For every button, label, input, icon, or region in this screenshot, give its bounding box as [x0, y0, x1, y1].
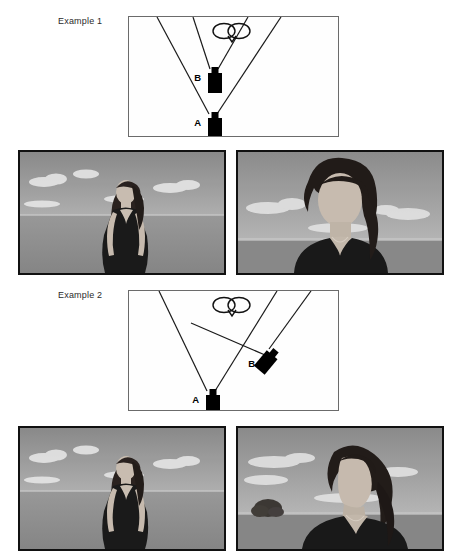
- example-2-label: Example 2: [58, 290, 102, 300]
- overhead-head-icon: [213, 298, 250, 317]
- sight-line-b-lower: [269, 291, 311, 349]
- example-1-photo-row: [0, 150, 465, 273]
- camera-b: [254, 346, 281, 375]
- example-1-schematic: B A: [128, 16, 339, 137]
- example-2-schematic: B A: [128, 290, 339, 411]
- camera-b: [208, 67, 222, 93]
- camera-b-label: B: [194, 72, 201, 83]
- example-block-1: Example 1 B: [0, 0, 465, 278]
- camera-a-label: A: [192, 394, 199, 405]
- example-2-photo-wide: [18, 426, 226, 551]
- overhead-head-icon: [213, 24, 250, 43]
- example-block-2: Example 2 B: [0, 278, 465, 558]
- camera-framing-figure: Example 1 B: [0, 0, 465, 558]
- sight-line-a-left: [159, 291, 207, 391]
- example-1-photo-closer: [236, 150, 444, 275]
- sight-line-a-right: [215, 291, 277, 391]
- sight-line-a-left: [157, 17, 209, 114]
- camera-a: [206, 389, 220, 410]
- camera-a: [208, 112, 222, 136]
- example-2-photo-row: [0, 426, 465, 549]
- sight-line-a-right: [217, 17, 281, 114]
- camera-b-label: B: [248, 358, 255, 369]
- example-1-label: Example 1: [58, 16, 102, 26]
- sight-line-b-left: [193, 17, 210, 69]
- example-1-photo-wide: [18, 150, 226, 275]
- example-2-photo-profile: [236, 426, 444, 551]
- camera-a-label: A: [194, 117, 201, 128]
